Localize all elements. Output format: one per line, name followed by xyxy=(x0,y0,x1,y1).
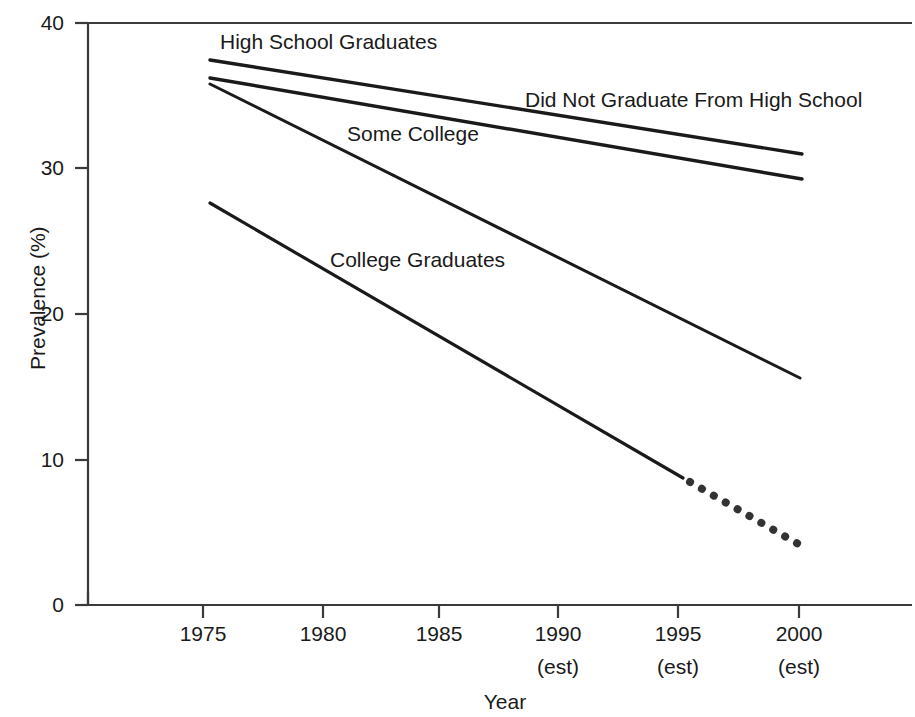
x-tick-label-1985: 1985 xyxy=(416,622,463,646)
y-tick-label-30: 30 xyxy=(10,156,64,180)
y-tick-marks xyxy=(75,23,88,605)
y-tick-label-40: 40 xyxy=(10,11,64,35)
chart-figure: 40 30 20 10 0 1975 1980 1985 1990 1995 2… xyxy=(0,0,915,717)
x-tick-sublabel-1995-est: (est) xyxy=(657,655,699,679)
series-annotation-did-not-graduate: Did Not Graduate From High School xyxy=(525,88,862,112)
x-tick-sublabel-2000-est: (est) xyxy=(778,655,820,679)
y-tick-label-0: 0 xyxy=(10,593,64,617)
x-tick-label-1995: 1995 xyxy=(655,622,702,646)
series-annotation-some-college: Some College xyxy=(347,122,479,146)
y-tick-label-10: 10 xyxy=(10,448,64,472)
x-tick-label-1980: 1980 xyxy=(300,622,347,646)
x-tick-label-1990: 1990 xyxy=(535,622,582,646)
y-axis-title: Prevalence (%) xyxy=(26,226,50,370)
series-line-college-graduates xyxy=(210,203,683,478)
series-annotation-high-school-graduates: High School Graduates xyxy=(220,30,437,54)
series-line-college-graduates-projected xyxy=(690,482,800,545)
series-annotation-college-graduates: College Graduates xyxy=(330,248,505,272)
x-tick-label-1975: 1975 xyxy=(180,622,227,646)
x-axis-title: Year xyxy=(484,690,526,714)
x-tick-sublabel-1990-est: (est) xyxy=(537,655,579,679)
x-tick-label-2000: 2000 xyxy=(776,622,823,646)
